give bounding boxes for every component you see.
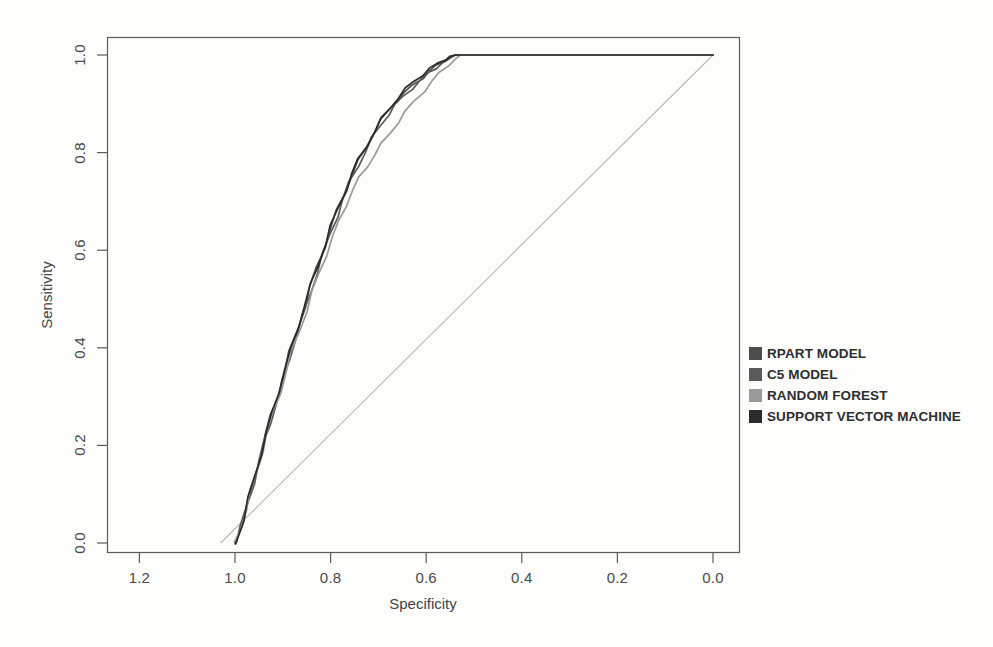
legend-item: SUPPORT VECTOR MACHINE [749,406,989,426]
y-tick-label: 0.8 [71,142,88,163]
legend-swatch-icon [749,347,762,360]
x-tick-label: 0.0 [702,569,723,586]
legend-item: C5 MODEL [749,364,989,384]
chance-diagonal [221,55,713,543]
x-tick-label: 0.8 [320,569,341,586]
legend-swatch-icon [749,410,762,423]
legend: RPART MODELC5 MODELRANDOM FORESTSUPPORT … [749,343,989,427]
legend-label: RPART MODEL [767,346,866,361]
legend-swatch-icon [749,368,762,381]
y-tick-label: 0.6 [71,239,88,260]
chance-diagonal-line [221,55,713,543]
x-tick-label: 1.0 [224,569,245,586]
x-tick-label: 0.2 [607,569,628,586]
y-tick-label: 0.4 [71,337,88,358]
legend-label: SUPPORT VECTOR MACHINE [767,409,961,424]
roc-plot [0,0,993,647]
x-tick-label: 0.6 [415,569,436,586]
roc-curve-c5-model [236,55,713,543]
x-tick-label: 1.2 [129,569,150,586]
legend-item: RPART MODEL [749,343,989,363]
roc-curves [234,55,713,544]
y-tick-label: 0.2 [71,435,88,456]
y-tick-label: 1.0 [71,44,88,65]
plot-frame [108,38,740,553]
x-axis-ticks [139,553,713,564]
legend-label: C5 MODEL [767,367,838,382]
y-axis-ticks [97,55,108,543]
x-tick-label: 0.4 [511,569,532,586]
y-axis-title: Sensitivity [38,261,55,329]
legend-swatch-icon [749,389,762,402]
legend-item: RANDOM FOREST [749,385,989,405]
x-axis-title: Specificity [389,595,457,612]
legend-label: RANDOM FOREST [767,388,888,403]
y-tick-label: 0.0 [71,532,88,553]
chart-page: 1.21.00.80.60.40.20.0 0.00.20.40.60.81.0… [0,0,993,647]
